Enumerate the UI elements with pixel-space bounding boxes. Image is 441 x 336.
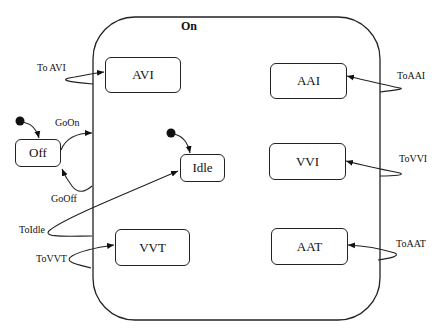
initial-transition-off xyxy=(23,122,39,138)
transition-go-on xyxy=(61,133,92,150)
initial-state-dot-idle xyxy=(167,129,176,138)
label-to-aat: ToAAT xyxy=(396,238,426,249)
state-avi[interactable]: AVI xyxy=(105,57,181,93)
state-vvt[interactable]: VVT xyxy=(115,229,190,266)
transition-to-aat xyxy=(348,245,396,260)
transition-go-off xyxy=(62,169,92,191)
state-off[interactable]: Off xyxy=(15,139,61,167)
transition-to-vvi xyxy=(346,161,401,176)
transition-to-avi xyxy=(66,72,104,84)
transition-to-vvt xyxy=(69,245,114,268)
on-state-label: On xyxy=(181,19,197,34)
label-go-on: GoOn xyxy=(55,117,79,128)
label-to-aai: ToAAI xyxy=(397,70,425,81)
state-aat[interactable]: AAT xyxy=(271,228,348,265)
label-to-vvi: ToVVI xyxy=(399,153,427,164)
label-to-idle: ToIdle xyxy=(19,224,45,235)
state-aai[interactable]: AAI xyxy=(270,63,347,99)
initial-state-dot-off xyxy=(16,117,25,126)
state-idle[interactable]: Idle xyxy=(180,154,225,182)
initial-transition-idle xyxy=(174,134,190,153)
label-to-vvt: ToVVT xyxy=(36,253,67,264)
label-go-off: GoOff xyxy=(51,193,77,204)
state-vvi[interactable]: VVI xyxy=(269,143,346,180)
label-to-avi: To AVI xyxy=(37,62,66,73)
transition-to-aai xyxy=(347,76,401,92)
